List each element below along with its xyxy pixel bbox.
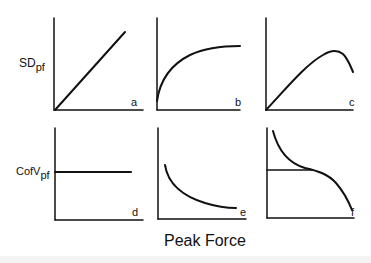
panel-a-curve	[55, 32, 125, 110]
y-label-subscript: pf	[36, 61, 45, 73]
y-label-main: CofV	[16, 165, 40, 177]
panel-f	[267, 128, 354, 218]
x-axis-label: Peak Force	[164, 232, 246, 250]
plot-canvas	[0, 0, 371, 263]
panel-d	[55, 128, 143, 220]
panel-a	[54, 18, 143, 110]
panel-letter-f: f	[351, 206, 354, 218]
y-label-main: SD	[19, 56, 36, 70]
panel-letter-a: a	[131, 96, 137, 108]
panel-letter-b: b	[235, 96, 241, 108]
panel-c	[266, 18, 353, 110]
panel-letter-e: e	[240, 206, 246, 218]
y-axis-label-bottom-row: CofVpf	[16, 165, 50, 181]
panel-c-curve	[266, 51, 353, 110]
figure: SDpf CofVpf a b c d e f Peak Force	[0, 0, 371, 263]
panel-e	[158, 128, 246, 219]
panel-b	[157, 18, 240, 110]
panel-letter-d: d	[132, 206, 138, 218]
panel-e-curve	[165, 165, 236, 208]
panel-b-curve	[157, 46, 240, 101]
panel-letter-c: c	[349, 96, 355, 108]
y-axis-label-top-row: SDpf	[19, 56, 45, 73]
y-label-subscript: pf	[40, 169, 49, 181]
bottom-edge	[0, 256, 371, 263]
